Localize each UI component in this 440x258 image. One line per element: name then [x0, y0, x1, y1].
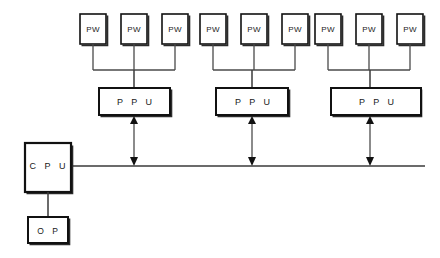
pw-node-3-1[interactable]: PW: [315, 14, 343, 46]
ppu-node-2[interactable]: P P U: [216, 88, 290, 117]
pw-node-1-3[interactable]: PW: [162, 14, 190, 46]
pw-node-1-2[interactable]: PW: [121, 14, 149, 46]
pw-label: PW: [247, 25, 261, 34]
pw-label: PW: [403, 25, 417, 34]
arrow-head-down: [130, 157, 138, 166]
ppu-label: P P U: [235, 97, 273, 107]
pw-node-3-3[interactable]: PW: [397, 14, 425, 46]
pw-node-2-1[interactable]: PW: [200, 14, 228, 46]
group-3: PW PW PW P P U: [315, 14, 425, 166]
cpu-label: C P U: [30, 161, 69, 171]
pw-label: PW: [206, 25, 220, 34]
diagram-canvas: PW PW PW P P U: [0, 0, 440, 258]
diagram-svg: PW PW PW P P U: [0, 0, 440, 258]
pw-node-2-3[interactable]: PW: [282, 14, 310, 46]
ppu-node-1[interactable]: P P U: [99, 88, 172, 117]
op-node[interactable]: O P: [28, 217, 70, 245]
ppu-bus-arrow-2: [248, 116, 256, 166]
ppu-label: P P U: [117, 97, 155, 107]
pw-label: PW: [168, 25, 182, 34]
pw-label: PW: [288, 25, 302, 34]
pw-label: PW: [362, 25, 376, 34]
pw-label: PW: [321, 25, 335, 34]
ppu-bus-arrow-1: [130, 116, 138, 166]
cpu-node[interactable]: C P U: [25, 143, 73, 194]
arrow-head-down: [366, 157, 374, 166]
group-2: PW PW PW P P U: [200, 14, 310, 166]
pw-node-2-2[interactable]: PW: [241, 14, 269, 46]
ppu-label: P P U: [359, 97, 397, 107]
pw-node-3-2[interactable]: PW: [356, 14, 384, 46]
op-label: O P: [37, 226, 61, 236]
ppu-bus-arrow-3: [366, 116, 374, 166]
pw-label: PW: [86, 25, 100, 34]
arrow-head-down: [248, 157, 256, 166]
group-1: PW PW PW P P U: [80, 14, 190, 166]
pw-label: PW: [127, 25, 141, 34]
ppu-node-3[interactable]: P P U: [331, 88, 422, 117]
pw-node-1-1[interactable]: PW: [80, 14, 108, 46]
